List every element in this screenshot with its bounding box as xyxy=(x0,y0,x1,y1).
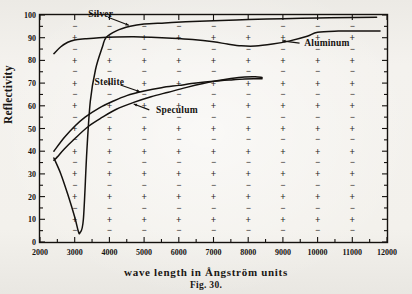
grid-plus-mark: + xyxy=(280,147,285,157)
grid-dash-mark: − xyxy=(142,134,147,144)
grid-plus-mark: + xyxy=(141,124,146,134)
series-label-speculum: Speculum xyxy=(156,105,198,115)
grid-dash-mark: − xyxy=(142,112,147,122)
grid-plus-mark: + xyxy=(245,101,250,111)
grid-plus-mark: + xyxy=(350,169,355,179)
grid-dash-mark: − xyxy=(315,180,320,190)
grid-dash-mark: − xyxy=(246,225,251,235)
grid-plus-mark: + xyxy=(245,192,250,202)
x-tick-label: 8000 xyxy=(240,248,256,257)
grid-plus-mark: + xyxy=(350,33,355,43)
grid-plus-mark: + xyxy=(315,215,320,225)
x-tick-label: 7000 xyxy=(206,248,222,257)
grid-plus-mark: + xyxy=(141,169,146,179)
grid-dash-mark: − xyxy=(350,180,355,190)
grid-dash-mark: − xyxy=(142,180,147,190)
grid-dash-mark: − xyxy=(142,66,147,76)
leader-arrowhead xyxy=(136,89,140,92)
grid-dash-mark: − xyxy=(211,66,216,76)
grid-plus-mark: + xyxy=(107,215,112,225)
grid-plus-mark: + xyxy=(280,124,285,134)
grid-dash-mark: − xyxy=(315,112,320,122)
grid-plus-mark: + xyxy=(315,56,320,66)
grid-dash-mark: − xyxy=(280,203,285,213)
grid-plus-mark: + xyxy=(176,192,181,202)
grid-dash-mark: − xyxy=(72,112,77,122)
grid-dash-mark: − xyxy=(176,66,181,76)
x-tick-label: 3000 xyxy=(67,248,83,257)
grid-plus-mark: + xyxy=(176,56,181,66)
grid-plus-mark: + xyxy=(211,192,216,202)
grid-plus-mark: + xyxy=(141,33,146,43)
grid-dash-mark: − xyxy=(72,66,77,76)
grid-dash-mark: − xyxy=(350,203,355,213)
grid-plus-mark: + xyxy=(176,124,181,134)
y-tick-label: 70 xyxy=(28,79,36,88)
y-tick-label: 0 xyxy=(32,238,36,247)
grid-dash-mark: − xyxy=(211,180,216,190)
series-label-stellite: Stellite xyxy=(95,77,125,87)
grid-dash-mark: − xyxy=(142,225,147,235)
grid-dash-mark: − xyxy=(107,89,112,99)
grid-plus-mark: + xyxy=(72,147,77,157)
grid-dash-mark: − xyxy=(315,21,320,31)
grid-dash-mark: − xyxy=(315,203,320,213)
grid-plus-mark: + xyxy=(245,79,250,89)
grid-dash-mark: − xyxy=(315,157,320,167)
grid-dash-mark: − xyxy=(142,21,147,31)
y-axis-title: Reflectivity xyxy=(2,24,14,124)
grid-dash-mark: − xyxy=(176,180,181,190)
grid-dash-mark: − xyxy=(72,157,77,167)
grid-plus-mark: + xyxy=(245,124,250,134)
grid-dash-mark: − xyxy=(246,203,251,213)
grid-dash-mark: − xyxy=(246,66,251,76)
x-tick-labels: 2000300040005000600070008000900010000110… xyxy=(32,248,397,257)
grid-dash-mark: − xyxy=(107,66,112,76)
grid-dash-mark: − xyxy=(72,89,77,99)
grid-dash-mark: − xyxy=(280,44,285,54)
grid-dash-mark: − xyxy=(107,44,112,54)
grid-plus-mark: + xyxy=(245,147,250,157)
grid-plus-mark: + xyxy=(350,79,355,89)
grid-plus-mark: + xyxy=(211,124,216,134)
x-tick-label: 6000 xyxy=(171,248,187,257)
grid-dash-mark: − xyxy=(246,134,251,144)
y-tick-label: 40 xyxy=(28,147,36,156)
grid-dash-mark: − xyxy=(315,134,320,144)
grid-plus-mark: + xyxy=(315,169,320,179)
y-tick-labels: 0102030405060708090100 xyxy=(24,11,36,247)
x-tick-label: 9000 xyxy=(275,248,291,257)
grid-dash-mark: − xyxy=(280,89,285,99)
x-tick-label: 5000 xyxy=(136,248,152,257)
grid-dash-mark: − xyxy=(211,203,216,213)
y-tick-label: 50 xyxy=(28,125,36,134)
grid-plus-mark: + xyxy=(315,192,320,202)
grid-plus-mark: + xyxy=(315,124,320,134)
grid-dash-mark: − xyxy=(211,21,216,31)
grid-plus-mark: + xyxy=(350,192,355,202)
grid-dash-mark: − xyxy=(246,112,251,122)
grid-plus-mark: + xyxy=(211,147,216,157)
grid-plus-mark: + xyxy=(72,56,77,66)
curve-speculum xyxy=(54,77,262,161)
grid-plus-mark: + xyxy=(141,215,146,225)
grid-plus-mark: + xyxy=(280,215,285,225)
grid-plus-mark: + xyxy=(141,56,146,66)
grid-dash-mark: − xyxy=(211,157,216,167)
grid-plus-mark: + xyxy=(211,56,216,66)
grid-plus-mark: + xyxy=(211,169,216,179)
grid-plus-mark: + xyxy=(245,33,250,43)
grid-dash-mark: − xyxy=(280,180,285,190)
y-tick-label: 60 xyxy=(28,102,36,111)
grid-plus-mark: + xyxy=(72,33,77,43)
grid-plus-mark: + xyxy=(72,169,77,179)
grid-plus-mark: + xyxy=(211,79,216,89)
x-axis-title: wave length in Ångström units xyxy=(0,266,412,278)
grid-dash-mark: − xyxy=(280,112,285,122)
grid-dash-mark: − xyxy=(142,157,147,167)
leader-arrowhead xyxy=(125,23,129,26)
x-tick-label: 2000 xyxy=(32,248,48,257)
y-tick-label: 80 xyxy=(28,56,36,65)
x-tick-label: 4000 xyxy=(101,248,117,257)
grid-plus-mark: + xyxy=(350,215,355,225)
